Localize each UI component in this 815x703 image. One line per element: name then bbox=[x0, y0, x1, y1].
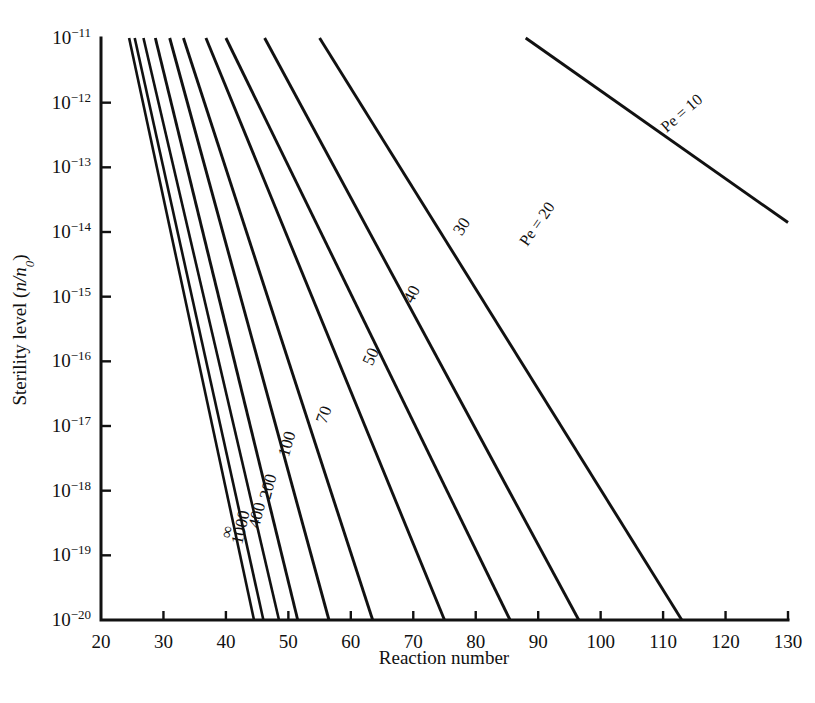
y-tick-label: 10−18 bbox=[52, 477, 91, 501]
curve-label-pe-400: 400 bbox=[244, 500, 269, 529]
curve-label-pe-10: Pe = 10 bbox=[657, 90, 705, 135]
y-tick-label: 10−16 bbox=[52, 348, 92, 372]
svg-text:Sterility level (n/n0): Sterility level (n/n0) bbox=[9, 254, 37, 405]
x-tick-label: 100 bbox=[586, 631, 615, 652]
y-tick-label: 10−15 bbox=[52, 283, 91, 307]
x-tick-label: 30 bbox=[154, 631, 173, 652]
x-tick-label: 60 bbox=[341, 631, 360, 652]
figure-container: 2030405060708090100110120130 10−1110−121… bbox=[0, 0, 815, 703]
sterility-level-chart: 2030405060708090100110120130 10−1110−121… bbox=[0, 0, 815, 703]
curve-label-pe-70: 70 bbox=[312, 403, 336, 425]
curve-label-pe-200: 200 bbox=[256, 472, 281, 502]
y-tick-label: 10−17 bbox=[52, 413, 92, 437]
curve-pe-30 bbox=[265, 38, 579, 620]
curve-label-pe-20: Pe = 20 bbox=[516, 199, 558, 249]
x-tick-label: 50 bbox=[279, 631, 298, 652]
x-tick-label: 90 bbox=[529, 631, 548, 652]
y-tick-labels: 10−1110−1210−1310−1410−1510−1610−1710−18… bbox=[52, 25, 92, 631]
x-tick-label: 110 bbox=[649, 631, 677, 652]
y-tick-label: 10−19 bbox=[52, 542, 91, 566]
curve-label-pe-50: 50 bbox=[359, 345, 383, 368]
curve-label-pe-40: 40 bbox=[399, 282, 424, 306]
curve-pe-40 bbox=[226, 38, 510, 620]
x-tick-label: 40 bbox=[216, 631, 235, 652]
y-tick-label: 10−20 bbox=[52, 607, 91, 631]
curve-pe-20 bbox=[320, 38, 682, 620]
x-tick-label: 120 bbox=[711, 631, 740, 652]
y-tick-label: 10−12 bbox=[52, 89, 91, 113]
axis-frame bbox=[101, 38, 788, 620]
curve-label-pe-30: 30 bbox=[449, 214, 474, 238]
y-tick-label: 10−14 bbox=[52, 219, 92, 243]
x-axis-title: Reaction number bbox=[379, 647, 510, 668]
x-tick-label: 130 bbox=[774, 631, 803, 652]
curve-pe-100 bbox=[170, 38, 329, 620]
x-tick-label: 20 bbox=[92, 631, 111, 652]
y-tick-label: 10−11 bbox=[52, 25, 91, 49]
axes-group bbox=[101, 38, 788, 620]
curve-pe-10 bbox=[526, 38, 788, 223]
y-tick-label: 10−13 bbox=[52, 154, 91, 178]
y-axis-title: Sterility level (n/n0) bbox=[9, 254, 37, 405]
